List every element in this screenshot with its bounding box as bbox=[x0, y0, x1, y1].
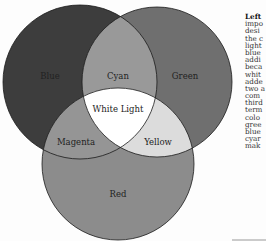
caption-text: Left impo desi the c light blue addi bec… bbox=[245, 13, 266, 150]
label-magenta: Magenta bbox=[57, 137, 95, 147]
label-green: Green bbox=[172, 71, 199, 81]
venn-diagram: Blue Cyan Green White Light Magenta Yell… bbox=[0, 0, 266, 241]
label-cyan: Cyan bbox=[107, 71, 129, 81]
label-red: Red bbox=[110, 189, 127, 199]
label-white-light: White Light bbox=[93, 104, 144, 114]
label-yellow: Yellow bbox=[143, 137, 172, 147]
caption-line: mak bbox=[245, 142, 266, 149]
label-blue: Blue bbox=[40, 71, 59, 81]
